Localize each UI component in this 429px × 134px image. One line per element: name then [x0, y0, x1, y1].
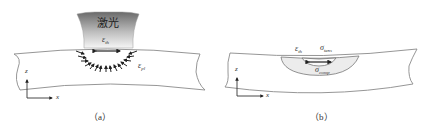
axis-z-label: z	[25, 68, 28, 75]
plate-right-edge	[409, 49, 417, 84]
thermal-strain-label: εth	[102, 36, 109, 45]
plate-left-edge	[14, 54, 20, 90]
thermal-strain-label-b: εth	[295, 45, 302, 54]
axis-x-label-b: x	[266, 92, 269, 99]
plastic-strain-arrows	[76, 51, 137, 72]
axis-z-label-b: z	[235, 66, 238, 73]
tensile-stress-label: σtens	[320, 44, 332, 53]
compressive-stress-label: σcomp	[315, 66, 330, 75]
plate-bottom-edge	[225, 84, 413, 93]
figure-a-laser-heating: 激光 εth εpl z x （a）	[0, 0, 215, 134]
plastic-strain-label: εpl	[138, 62, 145, 71]
axes-b	[237, 78, 263, 96]
plate-bottom-edge	[20, 84, 205, 90]
figure-b-cooling-stress: εth σtens σcomp z x （b）	[215, 0, 429, 134]
laser-label: 激光	[97, 18, 119, 29]
plate-right-edge	[196, 54, 205, 90]
axis-x-label: x	[56, 94, 59, 101]
caption-a: （a）	[89, 113, 111, 122]
caption-b: （b）	[310, 113, 333, 122]
plate-left-edge	[225, 53, 230, 87]
